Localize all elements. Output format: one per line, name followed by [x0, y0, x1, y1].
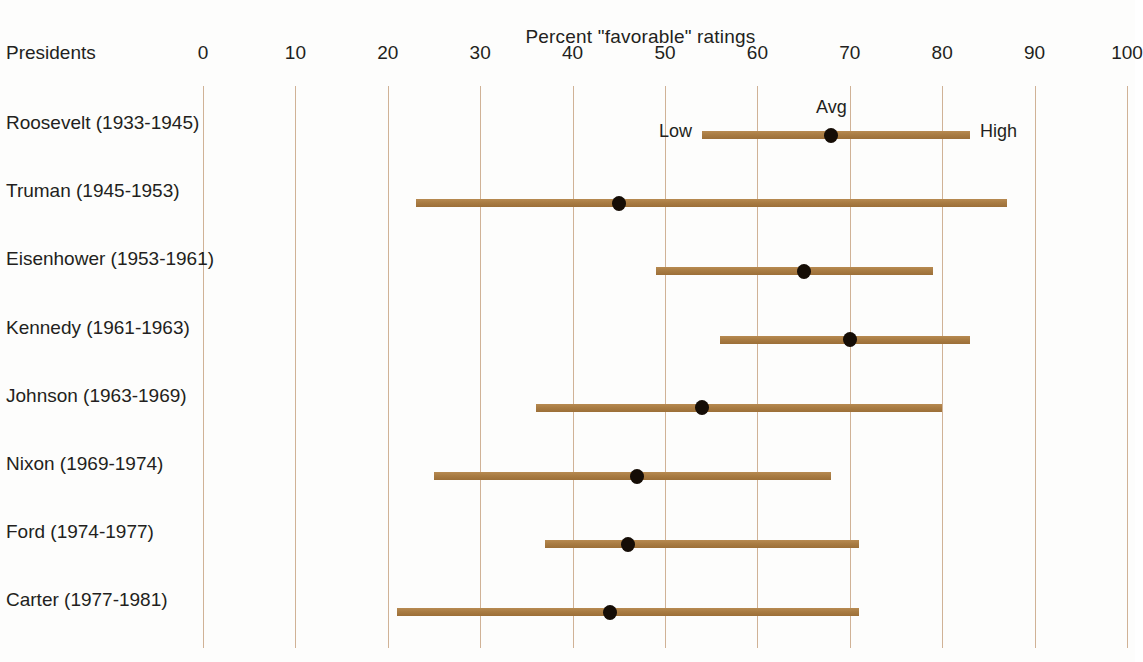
chart-row: Nixon (1969-1974) — [0, 453, 1135, 521]
chart-row: Ford (1974-1977) — [0, 521, 1135, 589]
range-bar — [397, 608, 859, 616]
x-tick-label-90: 90 — [1024, 42, 1045, 64]
row-label-roosevelt: Roosevelt (1933-1945) — [6, 112, 199, 134]
range-bar — [416, 199, 1007, 207]
average-marker — [630, 469, 644, 484]
x-tick-label-10: 10 — [285, 42, 306, 64]
annotation-avg: Avg — [816, 97, 847, 118]
x-tick-label-50: 50 — [654, 42, 675, 64]
x-tick-label-100: 100 — [1111, 42, 1143, 64]
chart-row: Truman (1945-1953) — [0, 180, 1135, 248]
row-label-johnson: Johnson (1963-1969) — [6, 385, 187, 407]
chart-row: Johnson (1963-1969) — [0, 385, 1135, 453]
x-tick-label-0: 0 — [198, 42, 209, 64]
chart-row: Roosevelt (1933-1945)LowHighAvg — [0, 112, 1135, 180]
x-tick-label-80: 80 — [932, 42, 953, 64]
average-marker — [695, 400, 709, 415]
annotation-high: High — [980, 121, 1017, 142]
average-marker — [612, 196, 626, 211]
chart-row: Kennedy (1961-1963) — [0, 317, 1135, 385]
y-axis-title: Presidents — [6, 42, 96, 64]
chart-row: Eisenhower (1953-1961) — [0, 248, 1135, 316]
range-bar — [656, 267, 933, 275]
average-marker — [824, 128, 838, 143]
x-tick-label-30: 30 — [470, 42, 491, 64]
row-label-kennedy: Kennedy (1961-1963) — [6, 317, 190, 339]
row-label-eisenhower: Eisenhower (1953-1961) — [6, 248, 214, 270]
annotation-low: Low — [659, 121, 692, 142]
range-bar — [545, 540, 859, 548]
average-marker — [843, 332, 857, 347]
row-label-truman: Truman (1945-1953) — [6, 180, 180, 202]
x-tick-label-20: 20 — [377, 42, 398, 64]
range-bar — [536, 404, 943, 412]
average-marker — [603, 605, 617, 620]
x-tick-label-70: 70 — [839, 42, 860, 64]
x-tick-label-40: 40 — [562, 42, 583, 64]
chart-row: Carter (1977-1981) — [0, 589, 1135, 657]
average-marker — [797, 264, 811, 279]
row-label-carter: Carter (1977-1981) — [6, 589, 168, 611]
row-label-nixon: Nixon (1969-1974) — [6, 453, 163, 475]
x-tick-label-60: 60 — [747, 42, 768, 64]
row-label-ford: Ford (1974-1977) — [6, 521, 154, 543]
average-marker — [621, 537, 635, 552]
x-axis: Presidents 0102030405060708090100 — [0, 42, 1135, 72]
